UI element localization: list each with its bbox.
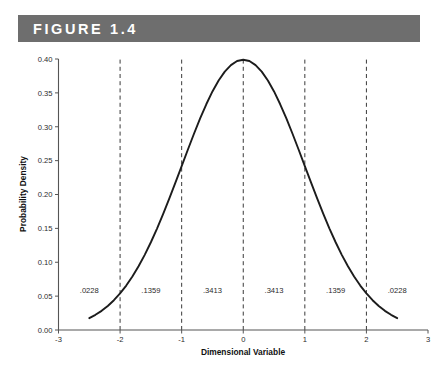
y-tick-label: 0.10	[38, 258, 53, 267]
y-tick-label: 0.40	[38, 55, 53, 64]
x-tick-label: 3	[426, 335, 430, 344]
x-tick-label: -3	[55, 335, 62, 344]
region-probability-label: .0228	[388, 286, 407, 295]
y-axis-title: Probability Density	[18, 156, 28, 232]
x-axis-ticks: -3-2-10123	[55, 330, 430, 344]
x-tick-label: -1	[178, 335, 185, 344]
y-tick-label: 0.05	[38, 292, 53, 301]
y-tick-label: 0.20	[38, 190, 53, 199]
chart-plot-area: 0.000.050.100.150.200.250.300.350.40 -3-…	[0, 48, 435, 377]
y-tick-label: 0.00	[38, 326, 53, 335]
x-tick-label: -2	[117, 335, 124, 344]
figure-header-bar: FIGURE 1.4	[18, 15, 420, 42]
normal-distribution-chart: 0.000.050.100.150.200.250.300.350.40 -3-…	[0, 48, 435, 377]
region-probability-label: .3413	[265, 286, 284, 295]
x-tick-label: 2	[364, 335, 368, 344]
y-tick-label: 0.30	[38, 123, 53, 132]
x-tick-label: 1	[303, 335, 307, 344]
region-probability-label: .0228	[80, 286, 99, 295]
x-axis-title: Dimensional Variable	[201, 347, 286, 357]
x-tick-label: 0	[241, 335, 245, 344]
y-tick-label: 0.35	[38, 89, 53, 98]
y-axis-ticks: 0.000.050.100.150.200.250.300.350.40	[38, 55, 59, 335]
figure-container: FIGURE 1.4 0.000.050.100.150.200.250.300…	[0, 0, 435, 377]
region-probability-label: .3413	[203, 286, 222, 295]
y-tick-label: 0.25	[38, 156, 53, 165]
region-probability-label: .1359	[141, 286, 160, 295]
region-probability-label: .1359	[326, 286, 345, 295]
y-tick-label: 0.15	[38, 224, 53, 233]
figure-title: FIGURE 1.4	[18, 21, 138, 37]
